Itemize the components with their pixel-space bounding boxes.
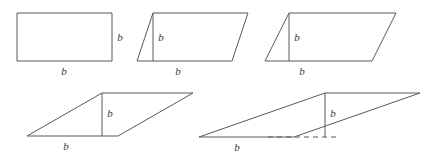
- rectangle-base-label: b: [61, 65, 67, 77]
- shape-parallelogram-medium: b b: [265, 13, 396, 77]
- parallelogram-extreme-height-label: b: [330, 107, 336, 119]
- shape-parallelogram-slight: b b: [137, 13, 248, 77]
- parallelogram-strong-height-label: b: [107, 107, 113, 119]
- parallelogram-medium-outline: [265, 13, 396, 61]
- parallelogram-medium-height-label: b: [294, 31, 300, 43]
- parallelogram-medium-base-label: b: [299, 65, 305, 77]
- rectangle-outline: [17, 13, 112, 61]
- shape-parallelogram-extreme: b b: [199, 93, 420, 153]
- parallelogram-slight-base-label: b: [175, 65, 181, 77]
- shape-parallelogram-strong: b b: [27, 93, 193, 152]
- rectangle-height-label: b: [117, 31, 123, 43]
- parallelogram-strong-base-label: b: [63, 140, 69, 152]
- parallelogram-slight-height-label: b: [158, 31, 164, 43]
- parallelogram-slight-outline: [137, 13, 248, 61]
- parallelogram-extreme-outline: [199, 93, 420, 137]
- figure-canvas: b b b b b b b b b b: [0, 0, 435, 158]
- shape-rectangle: b b: [17, 13, 123, 77]
- parallelogram-extreme-base-label: b: [234, 141, 240, 153]
- geometry-figure: b b b b b b b b b b: [0, 0, 435, 158]
